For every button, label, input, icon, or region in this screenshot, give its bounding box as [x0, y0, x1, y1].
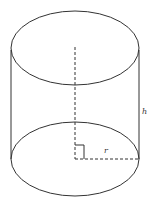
right-angle-marker — [75, 145, 84, 159]
radius-label: r — [104, 146, 109, 155]
height-label: h — [142, 107, 147, 116]
cylinder-diagram: r h — [0, 0, 153, 209]
